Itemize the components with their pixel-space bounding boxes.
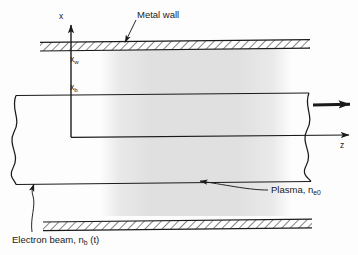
metal-wall-leader	[125, 20, 136, 43]
electron-beam-label-text: Electron beam, n	[12, 234, 84, 245]
bottom-metal-wall	[43, 219, 312, 230]
plasma-column	[100, 46, 292, 216]
z-axis-label: z	[340, 141, 344, 150]
electron-beam-label-suffix: (t)	[88, 234, 100, 245]
x-wall-label: xw	[70, 55, 79, 65]
x-wall-label-sub: w	[74, 58, 78, 65]
x-beam-label-sub: b	[74, 86, 77, 93]
electron-beam-label: Electron beam, nb (t)	[12, 235, 99, 247]
x-beam-label: xb	[70, 83, 78, 93]
plasma-waveguide-diagram: Metal wall Plasma, ne0 Electron beam, nb…	[0, 0, 358, 255]
beam-direction-arrow	[313, 104, 350, 105]
plasma-label-text: Plasma, n	[271, 184, 313, 195]
electron-beam-leader	[32, 184, 34, 232]
plasma-label: Plasma, ne0	[271, 185, 321, 197]
metal-wall-label: Metal wall	[137, 10, 179, 20]
x-axis-label: x	[59, 12, 63, 21]
diagram-canvas	[0, 0, 358, 255]
plasma-label-sub: e0	[313, 189, 321, 196]
